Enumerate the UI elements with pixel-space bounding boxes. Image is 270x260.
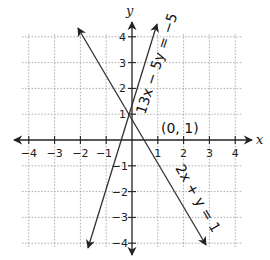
svg-text:−3: −3 bbox=[112, 211, 128, 224]
svg-text:3: 3 bbox=[206, 147, 213, 160]
svg-text:−2: −2 bbox=[112, 186, 128, 199]
svg-text:4: 4 bbox=[119, 31, 126, 44]
svg-text:2: 2 bbox=[180, 147, 187, 160]
svg-text:4: 4 bbox=[232, 147, 239, 160]
svg-text:1: 1 bbox=[119, 108, 126, 121]
equation-label-2x-y: 2x + y = 1 bbox=[172, 162, 224, 236]
line-2x-plus-y-eq-1 bbox=[78, 28, 206, 245]
intersection-point-label: (0, 1) bbox=[161, 120, 199, 136]
svg-text:−3: −3 bbox=[46, 147, 62, 160]
svg-text:−2: −2 bbox=[72, 147, 88, 160]
x-axis-label: x bbox=[256, 132, 264, 147]
svg-text:−4: −4 bbox=[112, 237, 128, 250]
coordinate-plane: −4 −3 −2 −1 1 2 3 4 4 3 2 1 −1 −2 −3 −4 … bbox=[0, 0, 270, 260]
svg-text:−1: −1 bbox=[96, 147, 112, 160]
y-axis-label: y bbox=[125, 3, 134, 18]
x-tick-labels: −4 −3 −2 −1 1 2 3 4 bbox=[21, 147, 239, 160]
svg-text:3: 3 bbox=[119, 57, 126, 70]
svg-text:−4: −4 bbox=[21, 147, 37, 160]
svg-text:2: 2 bbox=[119, 82, 126, 95]
